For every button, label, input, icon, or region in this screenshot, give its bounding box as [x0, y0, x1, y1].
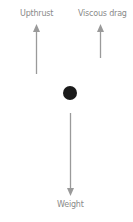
- upthrust-arrow-icon: [33, 24, 40, 74]
- weight-arrow-icon: [67, 113, 74, 196]
- ball-icon: [63, 86, 77, 100]
- diagram-canvas: [0, 0, 133, 222]
- viscous-drag-arrow-icon: [97, 24, 104, 58]
